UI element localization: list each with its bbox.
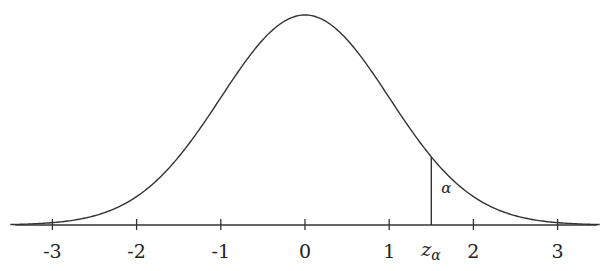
normal-density-curve: [10, 15, 599, 225]
x-tick-label: -1: [212, 240, 231, 262]
normal-distribution-chart: -3-2-10123 α zα: [0, 0, 610, 271]
x-tick-label: 0: [299, 240, 311, 262]
x-tick-label: 3: [552, 240, 564, 262]
x-tick-label: -3: [43, 240, 62, 262]
x-tick-label: -2: [127, 240, 146, 262]
critical-value-label: zα: [420, 238, 441, 263]
critical-value-label-sub: α: [431, 247, 441, 263]
x-tick-label: 1: [383, 240, 395, 262]
tail-area-label: α: [441, 179, 451, 197]
x-tick-label: 2: [467, 240, 479, 262]
